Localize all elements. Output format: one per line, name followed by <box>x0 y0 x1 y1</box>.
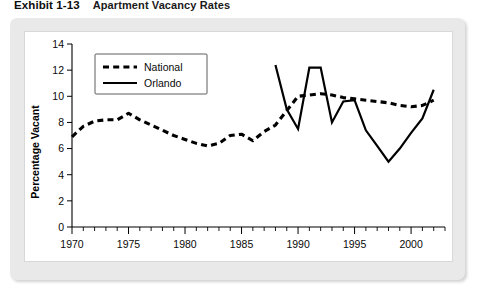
legend-label-orlando: Orlando <box>144 77 182 89</box>
exhibit-caption: Exhibit 1-13 Apartment Vacancy Rates <box>14 0 230 13</box>
series-line-orlando <box>275 65 433 162</box>
x-tick-label: 1990 <box>286 238 310 250</box>
y-axis-title-label: Percentage Vacant <box>29 105 41 199</box>
y-axis-title: Percentage Vacant <box>29 105 41 199</box>
x-tick-label: 1985 <box>230 238 254 250</box>
y-tick-label: 14 <box>52 38 64 50</box>
vacancy-rate-line-chart: Percentage Vacant 02468101214 1970197519… <box>25 32 452 261</box>
y-tick-label: 6 <box>58 142 64 154</box>
page-title: Apartment Vacancy Rates <box>93 0 230 11</box>
y-tick-label: 8 <box>58 116 64 128</box>
chart-panel: Percentage Vacant 02468101214 1970197519… <box>10 18 465 280</box>
exhibit-figure: Exhibit 1-13 Apartment Vacancy Rates Per… <box>0 0 483 294</box>
chart-legend: National Orlando <box>95 54 207 94</box>
y-tick-label: 4 <box>58 169 64 181</box>
x-tick-label: 1970 <box>60 238 84 250</box>
x-tick-label: 2000 <box>399 238 423 250</box>
chart-card: Percentage Vacant 02468101214 1970197519… <box>24 31 453 262</box>
x-tick-label: 1975 <box>117 238 141 250</box>
y-axis-ticks: 02468101214 <box>52 38 72 233</box>
series-line-national <box>72 94 434 146</box>
y-tick-label: 10 <box>52 90 64 102</box>
x-tick-label: 1995 <box>343 238 367 250</box>
x-axis-ticks: 1970197519801985199019952000 <box>60 227 445 250</box>
y-tick-label: 2 <box>58 195 64 207</box>
legend-label-national: National <box>144 61 183 73</box>
y-tick-label: 0 <box>58 221 64 233</box>
x-tick-label: 1980 <box>173 238 197 250</box>
y-tick-label: 12 <box>52 64 64 76</box>
exhibit-number: Exhibit 1-13 <box>14 0 80 11</box>
